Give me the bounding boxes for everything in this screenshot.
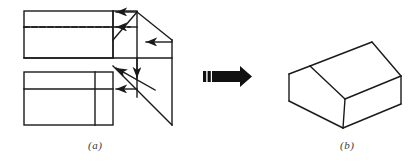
diagonal-fold-arrow <box>116 68 155 90</box>
front-gable-left-slope <box>289 66 310 74</box>
transform-arrow <box>203 66 252 87</box>
ridge-line <box>310 42 372 66</box>
top-rectangle <box>24 11 113 58</box>
long-diagonal-fold <box>113 66 172 125</box>
wall-bottom-left <box>289 101 343 128</box>
roof-far-slope <box>372 42 401 76</box>
ridge-left-slope <box>113 12 137 40</box>
panel-a-unfolded-net <box>24 11 172 125</box>
caption-panel-a: (a) <box>88 139 102 151</box>
ridge-right-slope <box>137 12 172 40</box>
block-arrow-tail-stripe-1 <box>203 71 206 82</box>
panel-b-gable-prism <box>289 42 401 128</box>
figure-container: (a) (b) <box>0 0 416 165</box>
bottom-rectangle <box>24 72 113 125</box>
roof-near-slope <box>310 66 345 99</box>
wall-bottom-right <box>343 104 401 128</box>
block-arrow-tail-stripe-2 <box>208 71 211 82</box>
wall-front-corner-vertical <box>343 99 345 128</box>
block-arrow-head-and-shaft <box>212 66 252 87</box>
roof-eave-line <box>345 76 401 99</box>
caption-panel-b: (b) <box>340 139 354 151</box>
